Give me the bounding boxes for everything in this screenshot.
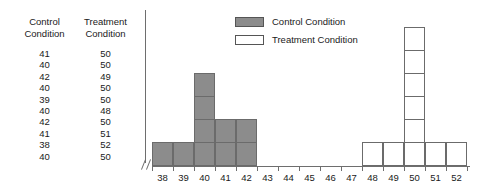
legend-label-control: Control Condition [272, 16, 345, 27]
cell-control: 38 [14, 139, 75, 150]
cell-treatment: 50 [75, 82, 136, 93]
column-header-treatment-line2: Condition [75, 28, 136, 40]
histogram-bar [236, 120, 257, 166]
histogram-cell [194, 73, 215, 97]
x-axis-tick [173, 166, 174, 171]
x-axis-tick-label: 43 [257, 172, 278, 184]
x-axis-tick [383, 166, 384, 171]
cell-treatment: 48 [75, 105, 136, 116]
x-axis-tick [362, 166, 363, 171]
table-row: 4050 [14, 59, 136, 70]
histogram-bar [446, 143, 467, 166]
legend-item-control: Control Condition [235, 14, 395, 29]
cell-treatment: 50 [75, 94, 136, 105]
histogram-cell [446, 142, 467, 166]
histogram-cell [404, 119, 425, 143]
histogram-bar [173, 143, 194, 166]
table-row: 4150 [14, 48, 136, 59]
column-header-control-line1: Control [14, 16, 75, 28]
histogram-cell [425, 142, 446, 166]
histogram-cell [215, 142, 236, 166]
x-axis-tick [320, 166, 321, 171]
y-axis-line [145, 10, 146, 163]
cell-control: 39 [14, 94, 75, 105]
x-axis-tick-label: 49 [383, 172, 404, 184]
x-axis-tick [299, 166, 300, 171]
axis-break-slash-2 [146, 159, 151, 170]
cell-control: 40 [14, 59, 75, 70]
cell-control: 40 [14, 151, 75, 162]
column-header-control-line2: Condition [14, 28, 75, 40]
histogram-cell [173, 142, 194, 166]
histogram-cell [404, 50, 425, 74]
x-axis-tick-label: 50 [404, 172, 425, 184]
x-axis-tick [194, 166, 195, 171]
x-axis-tick [152, 166, 153, 171]
table-row: 4151 [14, 128, 136, 139]
histogram-cell [236, 142, 257, 166]
cell-treatment: 50 [75, 116, 136, 127]
histogram-bar [383, 143, 404, 166]
cell-control: 42 [14, 116, 75, 127]
data-table: Control Condition Treatment Condition 41… [14, 16, 136, 162]
table-row: 3852 [14, 139, 136, 150]
cell-treatment: 51 [75, 128, 136, 139]
x-axis-tick-label: 42 [236, 172, 257, 184]
x-axis-tick-label: 47 [341, 172, 362, 184]
x-axis-tick-label: 40 [194, 172, 215, 184]
histogram-cell [194, 96, 215, 120]
cell-treatment: 50 [75, 48, 136, 59]
cell-treatment: 52 [75, 139, 136, 150]
histogram-cell [194, 119, 215, 143]
histogram-cell [362, 142, 383, 166]
histogram-bar [194, 74, 215, 166]
table-row: 4050 [14, 82, 136, 93]
cell-treatment: 50 [75, 59, 136, 70]
histogram-chart: 383940414243444546474849505152 Control C… [140, 6, 474, 188]
legend-swatch-treatment-icon [235, 35, 264, 45]
cell-treatment: 50 [75, 151, 136, 162]
chart-legend: Control Condition Treatment Condition [235, 14, 395, 50]
table-body: 4150405042494050395040484250415138524050 [14, 48, 136, 162]
x-axis-tick [215, 166, 216, 171]
table-header-row: Control Condition Treatment Condition [14, 16, 136, 39]
x-axis-tick-label: 44 [278, 172, 299, 184]
histogram-cell [152, 142, 173, 166]
x-axis-ticks [152, 166, 470, 171]
column-header-control: Control Condition [14, 16, 75, 39]
legend-label-treatment: Treatment Condition [272, 34, 358, 45]
cell-control: 41 [14, 128, 75, 139]
table-row: 3950 [14, 94, 136, 105]
histogram-cell [404, 73, 425, 97]
histogram-cell [215, 119, 236, 143]
column-header-treatment: Treatment Condition [75, 16, 136, 39]
histogram-cell [383, 142, 404, 166]
table-row: 4050 [14, 151, 136, 162]
x-axis-tick [446, 166, 447, 171]
x-axis-tick [425, 166, 426, 171]
x-axis-tick [278, 166, 279, 171]
table-row: 4048 [14, 105, 136, 116]
x-axis-tick-label: 52 [446, 172, 467, 184]
histogram-cell [404, 27, 425, 51]
x-axis-tick-label: 41 [215, 172, 236, 184]
table-row: 4250 [14, 116, 136, 127]
table-row: 4249 [14, 71, 136, 82]
legend-swatch-control-icon [235, 17, 264, 27]
cell-control: 42 [14, 71, 75, 82]
histogram-cell [236, 119, 257, 143]
x-axis-tick-labels: 383940414243444546474849505152 [152, 172, 470, 186]
legend-item-treatment: Treatment Condition [235, 32, 395, 47]
x-axis-tick-label: 38 [152, 172, 173, 184]
x-axis-tick-label: 39 [173, 172, 194, 184]
x-axis-tick-label: 45 [299, 172, 320, 184]
histogram-bar [215, 120, 236, 166]
cell-control: 41 [14, 48, 75, 59]
histogram-bar [425, 143, 446, 166]
histogram-cell [194, 142, 215, 166]
histogram-cell [404, 142, 425, 166]
x-axis-tick [257, 166, 258, 171]
cell-control: 40 [14, 105, 75, 116]
cell-control: 40 [14, 82, 75, 93]
histogram-cell [404, 96, 425, 120]
